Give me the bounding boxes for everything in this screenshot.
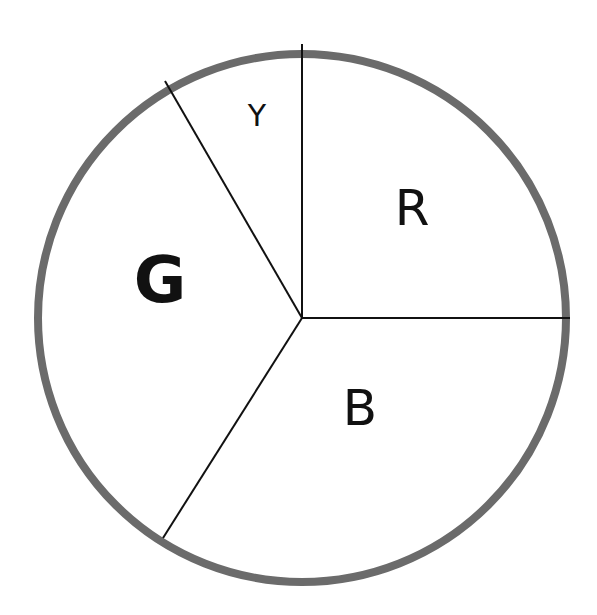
slice-label-r: R (395, 179, 430, 237)
slice-label-b: B (343, 379, 377, 437)
pie-chart: Y R G B (0, 0, 597, 615)
slice-label-y: Y (247, 98, 267, 133)
slice-label-g: G (134, 243, 187, 317)
